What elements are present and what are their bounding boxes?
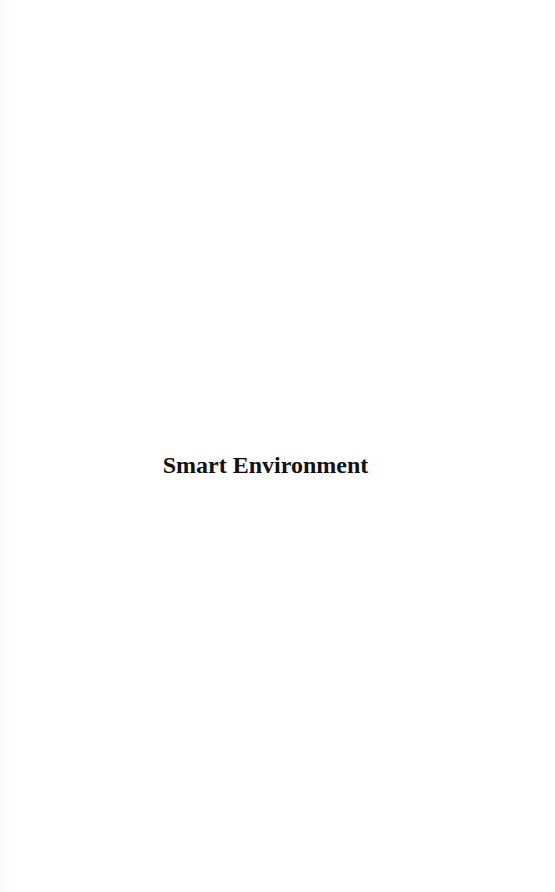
scan-edge-artifact <box>0 0 14 892</box>
title-page: Smart Environment <box>0 0 555 892</box>
page-title: Smart Environment <box>0 451 531 479</box>
